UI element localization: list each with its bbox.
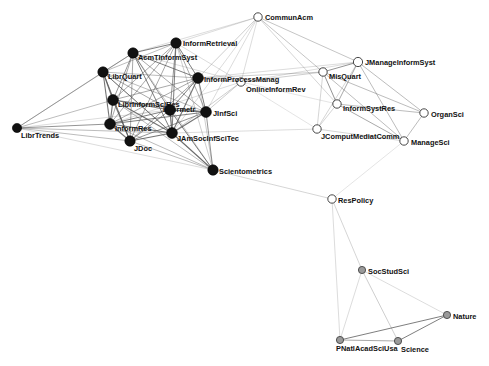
graph-edge [404,113,424,141]
graph-node-librinformscires[interactable] [108,95,119,106]
graph-edge [206,82,241,112]
graph-node-label-communacm: CommunAcm [265,13,313,22]
graph-edge [332,199,362,270]
graph-node-label-acmtinformsyst: AcmTInformSyst [138,53,198,62]
graph-node-jamsocinfscitec[interactable] [167,128,178,139]
graph-node-label-informres: InformRes [115,124,152,133]
graph-edge [110,53,133,124]
graph-node-pnatlacadsciusa[interactable] [336,336,343,343]
graph-node-communacm[interactable] [254,13,262,21]
graph-node-label-organsci: OrganSci [431,110,464,119]
network-graph-figure: CommunAcmInformRetrievalAcmTInformSystJM… [0,0,489,366]
graph-node-jinfsci[interactable] [201,107,212,118]
graph-node-label-informetr: Informetr [163,105,196,114]
graph-node-label-jdoc: JDoc [134,144,152,153]
graph-node-label-pnatlacadsciusa: PNatlAcadSciUsa [336,344,399,353]
graph-node-informres[interactable] [105,119,116,130]
graph-node-label-socstudsci: SocStudSci [368,267,409,276]
graph-edge [258,17,323,72]
graph-node-librquart[interactable] [98,67,108,77]
graph-node-organsci[interactable] [420,109,428,117]
graph-edge [340,270,362,340]
graph-edge [172,129,317,133]
graph-edge [340,315,447,340]
network-graph-canvas: CommunAcmInformRetrievalAcmTInformSystJM… [0,0,489,366]
graph-edge [258,17,358,62]
graph-node-jamsocinformretr[interactable] [171,38,181,48]
graph-edge [337,62,358,104]
graph-node-label-jmanageinformsyst: JManageInformSyst [365,58,436,67]
graph-node-socstudsci[interactable] [358,266,365,273]
graph-node-label-misquart: MisQuart [329,72,362,81]
graph-node-jcomputmediatcomm[interactable] [313,125,321,133]
graph-node-label-respolicy: ResPolicy [338,196,374,205]
graph-node-label-science: Science [401,345,429,354]
graph-node-managesci[interactable] [400,137,408,145]
graph-node-nature[interactable] [443,311,450,318]
graph-node-jmanageinformsyst[interactable] [353,57,362,66]
graph-node-label-jinfsci: JInfSci [213,109,237,118]
graph-node-label-scientometrics: Scientometrics [219,167,272,176]
graph-edge [332,141,404,199]
label-layer: CommunAcmInformRetrievalAcmTInformSystJM… [21,13,476,354]
graph-node-misquart[interactable] [319,68,327,76]
graph-node-label-nature: Nature [453,312,476,321]
graph-node-label-onlineinformrev: OnlineInformRev [246,85,306,94]
graph-node-acmtinformsyst[interactable] [128,48,138,58]
graph-edge [362,270,447,315]
graph-node-label-jamsocinfscitec: JAmSocInfSciTec [177,134,239,143]
graph-node-respolicy[interactable] [328,195,336,203]
graph-node-scientometrics[interactable] [208,165,218,175]
graph-edge [317,104,337,129]
graph-node-label-librquart: LibrQuart [108,72,142,81]
graph-node-label-managesci: ManageSci [411,138,450,147]
graph-node-label-informsystres: InformSystRes [343,104,395,113]
graph-node-label-librtrends: LibrTrends [21,131,59,140]
graph-edge [358,62,404,141]
graph-edge [113,78,198,100]
graph-node-informsystres[interactable] [333,100,341,108]
graph-edge [332,199,340,340]
graph-edge [17,72,103,128]
graph-node-informprocessmanag[interactable] [193,73,204,84]
graph-edge [340,340,398,341]
graph-node-label-jamsocinformretr: InformRetrieval [183,39,237,48]
graph-edge [398,315,447,341]
graph-edge [206,17,258,112]
graph-node-label-informprocessmanag: InformProcessManag [204,75,280,84]
graph-edge [17,100,113,128]
graph-node-label-jcomputmediatcomm: JComputMediatComm [321,132,400,141]
graph-edge [17,124,110,128]
